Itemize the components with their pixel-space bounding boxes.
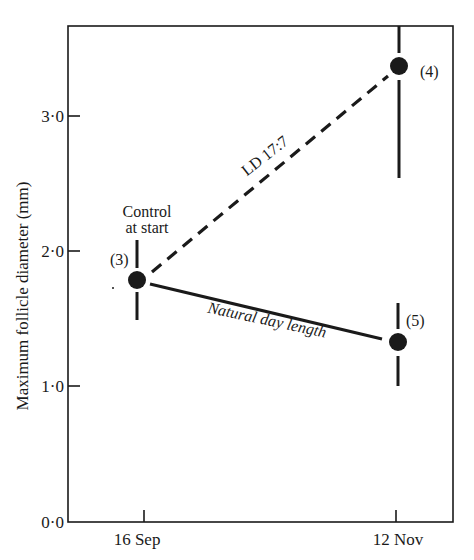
n-label-ld: (4) — [420, 63, 439, 81]
natural-series-label: Natural day length — [205, 299, 328, 342]
control-label-line1: Control — [123, 203, 172, 220]
follicle-diameter-chart: 3·0 2·0 1·0 0·0 Maximum follicle diamete… — [0, 0, 474, 560]
y-tick-label-1: 1·0 — [41, 377, 64, 396]
n-label-control: (3) — [110, 251, 129, 269]
y-tick-label-3: 3·0 — [41, 107, 64, 126]
y-axis: 3·0 2·0 1·0 0·0 Maximum follicle diamete… — [13, 107, 80, 532]
stray-dot — [112, 287, 114, 289]
ld-series-label: LD 17:7 — [238, 132, 291, 179]
y-tick-label-0: 0·0 — [41, 513, 64, 532]
data-point-natural — [389, 333, 407, 351]
y-tick-label-2: 2·0 — [41, 242, 64, 261]
data-point-ld — [390, 57, 408, 75]
y-axis-label: Maximum follicle diameter (mm) — [13, 182, 32, 411]
x-axis: 16 Sep 12 Nov — [114, 510, 424, 549]
control-label-line2: at start — [125, 219, 169, 236]
n-label-natural: (5) — [406, 312, 425, 330]
plot-frame — [68, 26, 453, 522]
data-point-control — [128, 271, 146, 289]
x-tick-label-12nov: 12 Nov — [373, 530, 424, 549]
x-tick-label-16sep: 16 Sep — [114, 530, 161, 549]
series-ld-dashed-line — [152, 76, 388, 272]
